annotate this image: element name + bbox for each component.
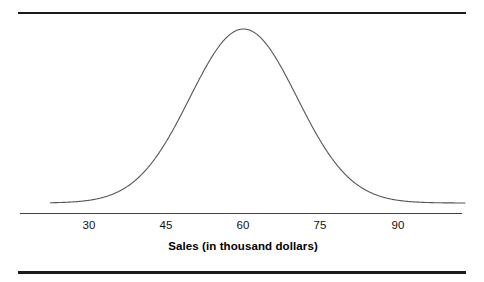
normal-curve-path (50, 29, 465, 203)
x-tick-label-75: 75 (290, 218, 350, 232)
x-axis-title-text: Sales (in thousand dollars) (168, 240, 318, 252)
x-axis-title: Sales (in thousand dollars) (0, 240, 484, 252)
x-tick-label-90: 90 (368, 218, 428, 232)
normal-distribution-figure: 30 45 60 75 90 Sales (in thousand dollar… (0, 0, 484, 282)
x-tick-label-30: 30 (59, 218, 119, 232)
bottom-horizontal-rule (18, 271, 466, 274)
x-tick-label-45: 45 (136, 218, 196, 232)
x-tick-label-60: 60 (213, 218, 273, 232)
